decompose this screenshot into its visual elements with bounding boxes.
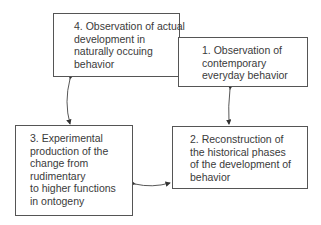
box-text: development in: [74, 33, 179, 46]
box-text: 2. Reconstruction of: [190, 133, 307, 146]
box-text: contemporary: [202, 57, 307, 70]
box-text: to higher functions: [30, 182, 132, 195]
arrow-box3-box2: [135, 183, 170, 186]
box-experimental-production: 3. Experimental production of the change…: [15, 125, 133, 216]
box-observation-actual-development: 4. Observation of actual development in …: [53, 13, 180, 77]
box-text: change from: [30, 157, 132, 170]
arrow-box4-box3: [67, 79, 70, 124]
box-text: 3. Experimental: [30, 132, 132, 145]
box-text: behavior: [190, 171, 307, 184]
box-observation-contemporary-behavior: 1. Observation of contemporary everyday …: [178, 37, 308, 87]
box-reconstruction-historical-phases: 2. Reconstruction of the historical phas…: [172, 126, 308, 189]
box-text: production of the: [30, 145, 132, 158]
box-text: of the development of: [190, 158, 307, 171]
box-text: rudimentary: [30, 170, 132, 183]
box-text: the historical phases: [190, 146, 307, 159]
box-text: 4. Observation of actual: [74, 20, 179, 33]
box-text: in ontogeny: [30, 195, 132, 208]
arrow-box1-box2: [229, 89, 230, 124]
box-text: everyday behavior: [202, 69, 307, 82]
box-text: behavior: [74, 58, 179, 71]
box-text: 1. Observation of: [202, 44, 307, 57]
box-text: naturally occuing: [74, 45, 179, 58]
